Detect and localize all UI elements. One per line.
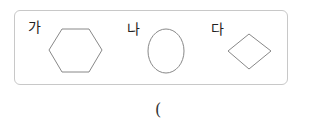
hexagon-shape — [49, 29, 102, 72]
diamond-shape — [228, 34, 271, 69]
ellipse-shape — [148, 29, 184, 73]
answer-open-paren: ( — [155, 100, 161, 119]
